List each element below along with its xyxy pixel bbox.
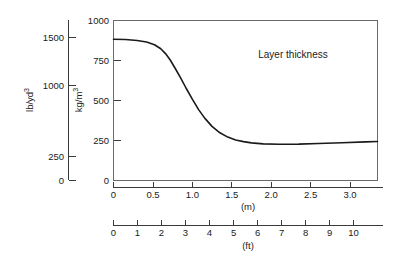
y-primary-tick-label-500: 500 bbox=[93, 95, 109, 106]
x-secondary-tick-label-3: 3 bbox=[183, 227, 188, 238]
y-secondary-title-base: lb/yd bbox=[24, 92, 35, 112]
x-secondary-tick-label-6: 6 bbox=[255, 227, 260, 238]
y-axis-secondary-title: lb/yd3 bbox=[23, 88, 35, 112]
y-primary-title-exponent: 3 bbox=[72, 88, 79, 92]
y-primary-tick-label-0: 0 bbox=[104, 175, 109, 186]
y-secondary-tick-label-1500: 1500 bbox=[43, 32, 64, 43]
x-secondary-tick-label-4: 4 bbox=[207, 227, 212, 238]
y-axis-secondary: 1500 1000 250 0 lb/yd3 bbox=[23, 20, 76, 186]
x-axis-primary: 0 0.5 1.0 1.5 2.0 2.5 3.0 (m) bbox=[111, 182, 383, 213]
chart-svg: 1500 1000 250 0 lb/yd3 1000 750 500 250 … bbox=[0, 0, 401, 264]
x-axis-secondary: 0 1 2 3 4 5 6 7 8 9 10 (ft) bbox=[111, 220, 383, 252]
x-secondary-tick-label-9: 9 bbox=[327, 227, 332, 238]
y-primary-tick-label-1000: 1000 bbox=[88, 15, 109, 26]
svg-text:kg/m3: kg/m3 bbox=[72, 88, 84, 113]
y-secondary-tick-label-0: 0 bbox=[59, 175, 64, 186]
x-secondary-tick-label-8: 8 bbox=[303, 227, 308, 238]
x-primary-tick-label-1_0: 1.0 bbox=[186, 189, 199, 200]
x-primary-tick-label-3_0: 3.0 bbox=[343, 189, 356, 200]
x-secondary-tick-label-0: 0 bbox=[111, 227, 116, 238]
x-secondary-tick-label-10: 10 bbox=[348, 227, 359, 238]
x-secondary-tick-label-5: 5 bbox=[231, 227, 236, 238]
y-axis-primary-title: kg/m3 bbox=[72, 88, 84, 113]
x-primary-tick-label-1_5: 1.5 bbox=[225, 189, 238, 200]
x-axis-primary-unit: (m) bbox=[241, 201, 255, 212]
x-secondary-tick-label-1: 1 bbox=[135, 227, 140, 238]
x-secondary-tick-label-2: 2 bbox=[159, 227, 164, 238]
x-primary-tick-label-2_5: 2.5 bbox=[304, 189, 317, 200]
y-primary-title-base: kg/m bbox=[73, 92, 84, 113]
x-secondary-tick-label-7: 7 bbox=[279, 227, 284, 238]
y-secondary-title-exponent: 3 bbox=[23, 88, 30, 92]
x-primary-tick-label-0: 0 bbox=[111, 189, 116, 200]
x-primary-tick-label-2_0: 2.0 bbox=[265, 189, 278, 200]
y-primary-tick-label-250: 250 bbox=[93, 135, 109, 146]
y-primary-tick-label-750: 750 bbox=[93, 55, 109, 66]
chart-figure: 1500 1000 250 0 lb/yd3 1000 750 500 250 … bbox=[0, 0, 401, 264]
data-series-layer-thickness bbox=[114, 39, 378, 144]
x-primary-tick-label-0_5: 0.5 bbox=[146, 189, 159, 200]
x-axis-secondary-unit: (ft) bbox=[242, 240, 254, 251]
svg-text:lb/yd3: lb/yd3 bbox=[23, 88, 35, 112]
y-secondary-tick-label-250: 250 bbox=[48, 151, 64, 162]
y-secondary-tick-label-1000: 1000 bbox=[43, 80, 64, 91]
annotation-layer-thickness: Layer thickness bbox=[258, 49, 327, 60]
